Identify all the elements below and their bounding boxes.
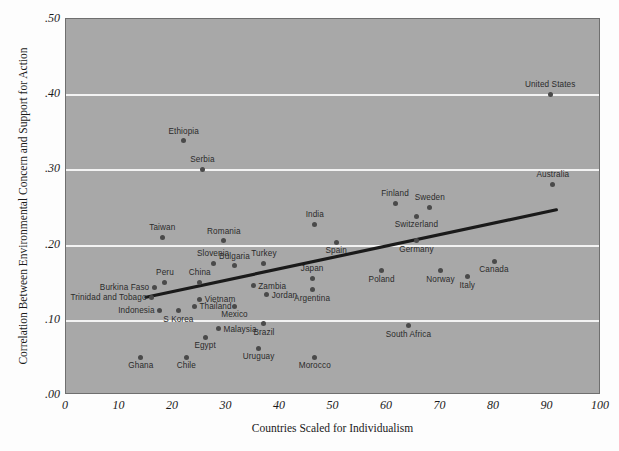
data-point[interactable] <box>152 285 157 290</box>
point-label: Spain <box>325 246 346 255</box>
point-label: Malaysia <box>223 324 256 333</box>
trendline <box>66 19 599 393</box>
point-label: Chile <box>177 361 196 370</box>
data-point[interactable] <box>149 295 154 300</box>
x-tick-label: 40 <box>259 398 299 413</box>
data-point[interactable] <box>414 214 419 219</box>
data-point[interactable] <box>427 205 432 210</box>
data-point[interactable] <box>548 92 553 97</box>
point-label: Finland <box>381 189 409 198</box>
data-point[interactable] <box>197 280 202 285</box>
data-point[interactable] <box>211 261 216 266</box>
point-label: Italy <box>459 281 475 290</box>
x-axis-title: Countries Scaled for Individualism <box>65 422 600 434</box>
point-label: Ghana <box>128 361 153 370</box>
point-label: Argentina <box>294 294 330 303</box>
data-point[interactable] <box>203 335 208 340</box>
data-point[interactable] <box>310 276 315 281</box>
point-label: Zambia <box>258 281 286 290</box>
x-tick-label: 90 <box>527 398 567 413</box>
x-tick-label: 10 <box>99 398 139 413</box>
x-tick-label: 30 <box>206 398 246 413</box>
point-label: India <box>306 210 324 219</box>
y-axis-title: Correlation Between Environmental Concer… <box>0 18 52 394</box>
x-tick-label: 80 <box>473 398 513 413</box>
data-point[interactable] <box>334 240 339 245</box>
data-point[interactable] <box>200 167 205 172</box>
point-label: Romania <box>207 227 240 236</box>
point-label: Germany <box>399 245 433 254</box>
point-label: Indonesia <box>118 306 154 315</box>
point-label: Peru <box>156 268 174 277</box>
x-tick-label: 20 <box>152 398 192 413</box>
data-point[interactable] <box>310 287 315 292</box>
data-point[interactable] <box>192 304 197 309</box>
point-label: Norway <box>426 275 454 284</box>
point-label: Jordan <box>272 290 298 299</box>
point-label: Switzerland <box>395 220 438 229</box>
point-label: Taiwan <box>149 223 175 232</box>
point-label: Morocco <box>299 361 331 370</box>
data-point[interactable] <box>256 346 261 351</box>
point-label: South Africa <box>386 330 431 339</box>
data-point[interactable] <box>393 201 398 206</box>
point-label: Turkey <box>251 249 276 258</box>
point-label: Trinidad and Tobago <box>70 293 146 302</box>
data-point[interactable] <box>232 304 237 309</box>
data-point[interactable] <box>160 235 165 240</box>
point-label: United States <box>525 80 575 89</box>
x-tick-label: 60 <box>366 398 406 413</box>
point-label: Bulgaria <box>219 252 250 261</box>
data-point[interactable] <box>184 355 189 360</box>
point-label: Uruguay <box>243 352 275 361</box>
point-label: Canada <box>479 265 508 274</box>
point-label: Burkina Faso <box>100 283 149 292</box>
plot-panel: United StatesAustraliaEthiopiaSerbiaFinl… <box>65 18 600 394</box>
point-label: Australia <box>536 170 569 179</box>
point-label: Ethiopia <box>168 127 198 136</box>
data-point[interactable] <box>157 308 162 313</box>
point-label: S Korea <box>163 315 193 324</box>
x-tick-label: 50 <box>313 398 353 413</box>
point-label: Sweden <box>415 193 445 202</box>
point-label: Egypt <box>194 341 215 350</box>
data-point[interactable] <box>492 259 497 264</box>
point-label: Japan <box>301 264 324 273</box>
x-tick-label: 100 <box>580 398 619 413</box>
x-tick-label: 0 <box>45 398 85 413</box>
point-label: China <box>189 268 211 277</box>
point-label: Poland <box>369 275 395 284</box>
scatter-plot-figure: United StatesAustraliaEthiopiaSerbiaFinl… <box>0 0 619 451</box>
point-label: Serbia <box>190 155 214 164</box>
x-tick-label: 70 <box>420 398 460 413</box>
point-label: Mexico <box>221 310 248 319</box>
